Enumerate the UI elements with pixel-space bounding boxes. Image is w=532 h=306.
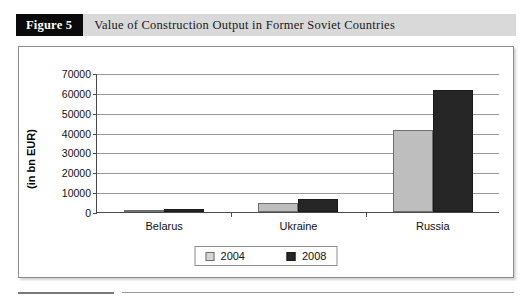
x-axis-tick-mark — [231, 212, 232, 217]
bar-group — [366, 74, 500, 212]
bar-russia-2004 — [393, 130, 433, 212]
bar-group — [231, 74, 365, 212]
x-axis-label-belarus: Belarus — [146, 220, 183, 232]
chart-legend: 20042008 — [195, 246, 338, 266]
bar-group — [97, 74, 231, 212]
bar-russia-2008 — [433, 90, 473, 212]
plot-wrapper: 700006000050000400003000020000100000 Bel… — [19, 47, 515, 279]
plot-area: 700006000050000400003000020000100000 Bel… — [96, 74, 499, 213]
legend-label-2008: 2008 — [302, 250, 326, 262]
y-axis-tick-label: 60000 — [62, 88, 91, 100]
footer-rule-long — [122, 292, 514, 293]
x-axis-label-ukraine: Ukraine — [280, 220, 318, 232]
legend-swatch-2008 — [287, 252, 296, 261]
y-axis-tick-label: 70000 — [62, 68, 91, 80]
y-axis-tick-label: 10000 — [62, 187, 91, 199]
chart-container: (in bn EUR) 7000060000500004000030000200… — [18, 46, 514, 278]
figure-caption: Value of Construction Output in Former S… — [83, 14, 395, 36]
legend-swatch-2004 — [206, 252, 215, 261]
y-axis-tick-label: 40000 — [62, 128, 91, 140]
bar-ukraine-2008 — [298, 199, 338, 212]
figure-number-badge: Figure 5 — [16, 14, 83, 36]
y-axis-tick-label: 30000 — [62, 147, 91, 159]
bars-layer — [97, 74, 499, 212]
footer-rule-short — [18, 292, 114, 294]
y-axis-tick-label: 50000 — [62, 108, 91, 120]
bar-belarus-2004 — [124, 210, 164, 212]
x-axis-tick-mark — [366, 212, 367, 217]
legend-label-2004: 2004 — [221, 250, 245, 262]
y-axis-tick-mark — [93, 213, 97, 214]
bar-belarus-2008 — [164, 209, 204, 212]
y-axis-tick-label: 0 — [85, 207, 91, 219]
x-axis-label-russia: Russia — [416, 220, 450, 232]
bar-ukraine-2004 — [258, 203, 298, 212]
figure-header: Figure 5 Value of Construction Output in… — [16, 14, 516, 36]
legend-item-2004[interactable]: 2004 — [206, 250, 245, 262]
y-axis-tick-label: 20000 — [62, 167, 91, 179]
legend-item-2008[interactable]: 2008 — [287, 250, 326, 262]
